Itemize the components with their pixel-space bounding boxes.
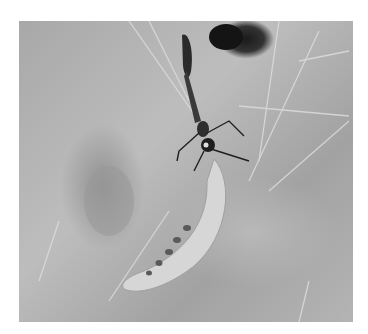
burrow-hole — [209, 24, 243, 50]
photo — [19, 21, 353, 322]
larva — [123, 159, 226, 291]
grass-blades — [39, 21, 349, 322]
wasp — [177, 34, 249, 171]
wasp-larva-scene — [19, 21, 353, 322]
ground-depression — [84, 166, 134, 236]
